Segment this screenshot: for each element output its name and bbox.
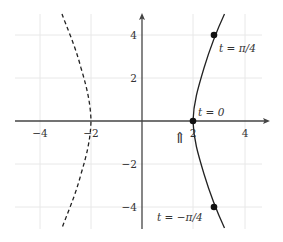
point-t-0 xyxy=(190,118,197,125)
x-tick-label: −4 xyxy=(32,127,48,139)
up-arrow-icon: ⇑ xyxy=(174,129,187,147)
x-tick-labels: −4 −2 2 4 xyxy=(32,127,248,139)
y-tick-label: −2 xyxy=(122,158,137,170)
point-t-neg-pi-over-4 xyxy=(211,204,218,211)
label-t-pi-over-4: t = π/4 xyxy=(219,42,256,54)
label-t-0: t = 0 xyxy=(198,106,225,118)
hyperbola-plot: −4 −2 2 4 4 2 −2 −4 t = π/4 t = 0 t = −π… xyxy=(0,0,283,242)
y-tick-label: −4 xyxy=(122,201,138,213)
label-t-neg-pi-over-4: t = −π/4 xyxy=(157,211,203,223)
y-tick-label: 4 xyxy=(130,29,137,41)
y-tick-label: 2 xyxy=(130,72,137,84)
point-t-pi-over-4 xyxy=(211,32,218,39)
x-tick-label: 4 xyxy=(242,127,249,139)
